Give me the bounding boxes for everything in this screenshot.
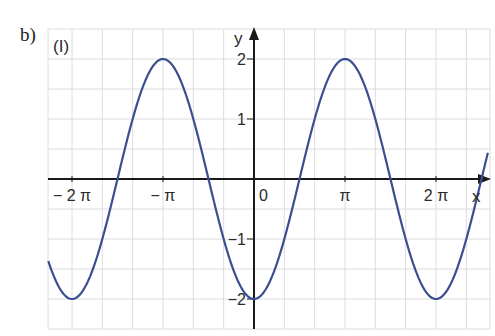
y-tick-label: −1	[228, 231, 246, 248]
x-axis-label: x	[472, 187, 481, 206]
x-tick-label: − 2 π	[53, 187, 91, 204]
chart: − 2 π− π0π2 π21−1−2 (I) y x	[0, 0, 495, 336]
x-tick-label: − π	[151, 187, 176, 204]
y-tick-label: 2	[237, 51, 246, 68]
x-tick-label: 2 π	[424, 187, 448, 204]
y-tick-label: 1	[237, 111, 246, 128]
x-tick-label: π	[339, 187, 350, 204]
x-tick-label: 0	[259, 187, 268, 204]
y-axis-label: y	[234, 29, 243, 48]
chart-title: (I)	[53, 37, 69, 56]
y-tick-label: −2	[228, 291, 246, 308]
